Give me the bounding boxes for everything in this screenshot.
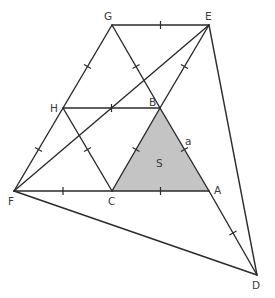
segments	[14, 25, 257, 275]
segment-fd	[14, 191, 257, 275]
label-area-s: S	[156, 157, 163, 169]
label-g: G	[104, 10, 112, 22]
label-d: D	[252, 279, 260, 291]
tick-gh	[84, 65, 91, 69]
label-side-a: a	[185, 135, 191, 147]
tick-gb	[133, 65, 140, 69]
point-labels: G E H B F C A D S a	[8, 10, 260, 291]
segment-ed	[209, 25, 257, 275]
label-e: E	[205, 10, 212, 22]
label-f: F	[8, 195, 14, 207]
tick-marks	[35, 21, 237, 235]
label-b: B	[149, 96, 156, 108]
label-c: C	[108, 195, 115, 207]
label-a: A	[214, 184, 222, 196]
label-h: H	[50, 102, 58, 114]
geometry-diagram: G E H B F C A D S a	[0, 0, 275, 298]
tick-hc	[84, 148, 91, 152]
shaded-triangle-bca	[112, 108, 209, 191]
tick-eb	[181, 65, 188, 69]
tick-hf	[35, 148, 42, 152]
